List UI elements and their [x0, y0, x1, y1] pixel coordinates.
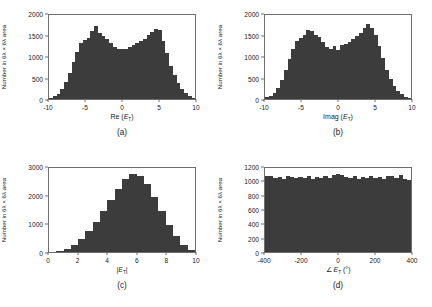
y-tick-label: 0 — [255, 250, 259, 257]
x-tick-label: 0 — [336, 257, 340, 264]
figure-grid: Number in 6λ × 6λ area 0500100015002000 … — [0, 0, 432, 307]
x-tick-mark — [196, 252, 197, 255]
panel-b: Number in 6λ × 6λ area 0500100015002000 … — [216, 0, 432, 153]
histogram-bar — [107, 200, 114, 252]
panel-b-bars — [265, 15, 411, 99]
histogram-bar — [71, 245, 78, 252]
x-tick-mark — [375, 252, 376, 255]
x-tick-mark — [338, 252, 339, 255]
x-tick-mark — [77, 252, 78, 255]
panel-d-yticks: 020040060080010001200 — [230, 167, 262, 253]
x-tick-label: 6 — [135, 257, 139, 264]
x-tick-mark — [136, 252, 137, 255]
x-tick-label: 8 — [165, 257, 169, 264]
histogram-bar — [122, 179, 129, 252]
panel-c: Number in 6λ × 6λ area 0100020003000 024… — [0, 153, 216, 307]
x-tick-label: -5 — [82, 104, 88, 111]
histogram-bar — [93, 222, 100, 252]
x-tick-label: 5 — [373, 104, 377, 111]
histogram-bar — [56, 251, 63, 252]
panel-b-xticks: -10-50510 — [264, 100, 412, 114]
x-tick-mark — [338, 99, 339, 102]
y-tick-label: 500 — [248, 75, 259, 82]
x-tick-label: 0 — [120, 104, 124, 111]
panel-d-xlabel: ∠ ET (°) — [264, 266, 412, 274]
panel-d-caption: (d) — [264, 281, 412, 290]
y-tick-label: 0 — [39, 97, 43, 104]
panel-b-yticks: 0500100015002000 — [230, 14, 262, 100]
y-tick-label: 0 — [39, 250, 43, 257]
panel-c-bars — [49, 168, 195, 252]
x-tick-mark — [107, 252, 108, 255]
histogram-bar — [64, 249, 71, 252]
histogram-bar — [158, 211, 165, 252]
x-tick-mark — [159, 99, 160, 102]
histogram-bar — [407, 180, 411, 252]
x-tick-label: -5 — [298, 104, 304, 111]
x-tick-label: 0 — [46, 257, 50, 264]
x-tick-mark — [375, 99, 376, 102]
panel-d-xticks: -400-2000200400 — [264, 253, 412, 267]
y-tick-label: 1200 — [244, 164, 259, 171]
panel-a-xlabel: Re (ET) — [48, 113, 196, 120]
x-tick-label: 10 — [408, 104, 415, 111]
panel-b-ylabel: Number in 6λ × 6λ area — [214, 0, 226, 14]
panel-c-caption: (c) — [48, 281, 196, 290]
x-tick-label: 2 — [76, 257, 80, 264]
x-tick-label: 10 — [192, 257, 199, 264]
x-tick-label: 10 — [192, 104, 199, 111]
panel-a-yticks: 0500100015002000 — [14, 14, 46, 100]
panel-c-xlabel: |ET| — [48, 266, 196, 273]
y-tick-label: 3000 — [28, 164, 43, 171]
y-tick-label: 2000 — [244, 11, 259, 18]
x-tick-label: 200 — [369, 257, 380, 264]
x-tick-mark — [301, 99, 302, 102]
panel-a-plot-area — [48, 14, 196, 100]
x-tick-label: -10 — [43, 104, 53, 111]
histogram-bar — [144, 184, 151, 252]
histogram-bar — [115, 189, 122, 252]
panel-b-caption: (b) — [264, 128, 412, 137]
y-tick-label: 1500 — [244, 32, 259, 39]
x-tick-mark — [301, 252, 302, 255]
panel-b-plot-area — [264, 14, 412, 100]
histogram-bar — [151, 197, 158, 252]
panel-a-caption: (a) — [48, 128, 196, 137]
panel-c-plot-area — [48, 167, 196, 253]
y-tick-label: 1000 — [244, 54, 259, 61]
x-tick-mark — [48, 99, 49, 102]
x-tick-label: 400 — [406, 257, 417, 264]
x-tick-label: -200 — [294, 257, 307, 264]
y-tick-label: 2000 — [28, 11, 43, 18]
x-tick-label: 5 — [157, 104, 161, 111]
histogram-bar — [137, 176, 144, 252]
y-tick-label: 0 — [255, 97, 259, 104]
histogram-bar — [78, 239, 85, 252]
y-tick-label: 1000 — [28, 221, 43, 228]
x-tick-mark — [412, 252, 413, 255]
x-tick-label: -10 — [259, 104, 269, 111]
histogram-bar — [129, 174, 136, 252]
histogram-bar — [188, 250, 195, 252]
y-tick-label: 200 — [248, 235, 259, 242]
x-tick-mark — [264, 99, 265, 102]
panel-d-ylabel: Number in 6λ × 6λ area — [214, 81, 226, 167]
x-tick-mark — [122, 99, 123, 102]
y-tick-label: 400 — [248, 221, 259, 228]
panel-a-xticks: -10-50510 — [48, 100, 196, 114]
panel-d-bars — [265, 168, 411, 252]
histogram-bar — [85, 231, 92, 252]
x-tick-label: 0 — [336, 104, 340, 111]
histogram-bar — [166, 225, 173, 252]
y-tick-label: 2000 — [28, 192, 43, 199]
x-tick-mark — [85, 99, 86, 102]
panel-c-yticks: 0100020003000 — [14, 167, 46, 253]
x-tick-mark — [166, 252, 167, 255]
y-tick-label: 1000 — [28, 54, 43, 61]
panel-c-xticks: 0246810 — [48, 253, 196, 267]
y-tick-label: 600 — [248, 207, 259, 214]
x-tick-label: -400 — [257, 257, 270, 264]
x-tick-mark — [264, 252, 265, 255]
x-tick-label: 4 — [105, 257, 109, 264]
y-tick-label: 1500 — [28, 32, 43, 39]
